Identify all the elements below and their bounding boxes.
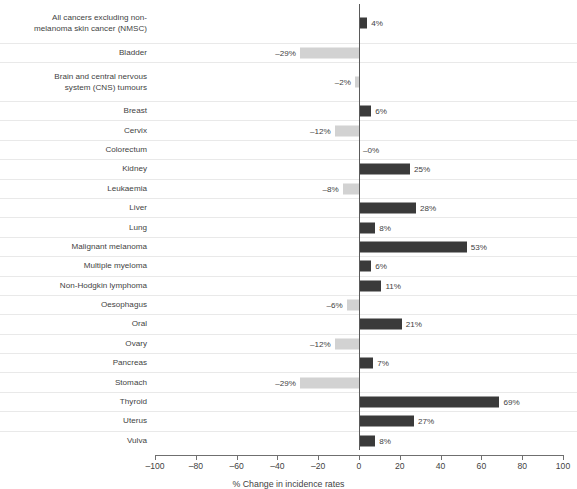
data-bar — [359, 222, 375, 233]
data-value-label: –12% — [310, 339, 331, 348]
data-bar — [359, 435, 375, 446]
category-label: Kidney — [0, 164, 147, 175]
data-bar — [359, 280, 381, 291]
category-label: Cervix — [0, 125, 147, 136]
chart-row: Ovary–12% — [0, 334, 577, 353]
chart-row: Liver28% — [0, 198, 577, 217]
category-label: Vulva — [0, 436, 147, 447]
category-label: Colorectum — [0, 145, 147, 156]
chart-row: Multiple myeloma6% — [0, 256, 577, 275]
data-bar — [359, 416, 414, 427]
data-value-label: 53% — [471, 242, 487, 251]
data-value-label: 6% — [375, 262, 387, 271]
category-label: Lung — [0, 222, 147, 233]
category-label: Leukaemia — [0, 183, 147, 194]
chart-row: Brain and central nervous system (CNS) t… — [0, 62, 577, 101]
category-label: Non-Hodgkin lymphoma — [0, 280, 147, 291]
data-value-label: 7% — [377, 359, 389, 368]
data-bar — [347, 300, 359, 311]
x-axis-tick — [522, 455, 523, 460]
x-axis-tick-label: –40 — [270, 461, 284, 471]
data-value-label: 69% — [503, 398, 519, 407]
category-label: Bladder — [0, 48, 147, 59]
x-axis-tick — [318, 455, 319, 460]
x-axis-tick-label: 20 — [395, 461, 405, 471]
x-axis-title: % Change in incidence rates — [0, 479, 577, 489]
data-value-label: –29% — [275, 378, 296, 387]
chart-row: Kidney25% — [0, 159, 577, 178]
chart-row: Breast6% — [0, 101, 577, 120]
zero-axis-line — [359, 4, 360, 450]
category-label: Oesophagus — [0, 300, 147, 311]
chart-row: Pancreas7% — [0, 353, 577, 372]
data-bar — [359, 319, 402, 330]
data-value-label: –2% — [335, 78, 351, 87]
data-bar — [335, 125, 359, 136]
data-bar — [359, 164, 410, 175]
data-value-label: –8% — [323, 184, 339, 193]
data-value-label: 11% — [385, 281, 401, 290]
data-bar — [359, 203, 416, 214]
data-value-label: –0% — [363, 145, 379, 154]
x-axis-tick-label: –80 — [189, 461, 203, 471]
x-axis-tick — [400, 455, 401, 460]
data-value-label: 21% — [406, 320, 422, 329]
x-axis-tick-label: 40 — [436, 461, 446, 471]
data-value-label: 4% — [371, 19, 383, 28]
data-bar — [335, 338, 359, 349]
x-axis-tick-label: 100 — [556, 461, 570, 471]
x-axis-tick-label: 80 — [517, 461, 527, 471]
data-bar — [300, 47, 359, 58]
x-axis-tick-label: –60 — [229, 461, 243, 471]
category-label: Liver — [0, 203, 147, 214]
category-label: Pancreas — [0, 358, 147, 369]
x-axis-tick — [481, 455, 482, 460]
x-axis-tick-label: –100 — [145, 461, 164, 471]
x-axis-tick-label: 0 — [357, 461, 362, 471]
chart-row: Colorectum–0% — [0, 140, 577, 159]
data-bar — [359, 397, 499, 408]
data-value-label: 25% — [414, 165, 430, 174]
chart-row: Thyroid69% — [0, 392, 577, 411]
category-label: Multiple myeloma — [0, 261, 147, 272]
x-axis-tick — [441, 455, 442, 460]
x-axis-tick — [359, 455, 360, 460]
data-value-label: 27% — [418, 417, 434, 426]
x-axis-tick-label: –20 — [311, 461, 325, 471]
chart-row: Uterus27% — [0, 411, 577, 430]
data-value-label: –6% — [327, 301, 343, 310]
category-label: Oral — [0, 319, 147, 330]
chart-row: Stomach–29% — [0, 372, 577, 391]
data-bar — [359, 18, 367, 29]
x-axis-tick — [277, 455, 278, 460]
data-value-label: 6% — [375, 107, 387, 116]
chart-row: Oesophagus–6% — [0, 295, 577, 314]
category-label: Thyroid — [0, 397, 147, 408]
category-label: Uterus — [0, 416, 147, 427]
chart-row: All cancers excluding non- melanoma skin… — [0, 4, 577, 43]
x-axis-tick — [237, 455, 238, 460]
x-axis-tick-label: 60 — [477, 461, 487, 471]
category-label: Malignant melanoma — [0, 242, 147, 253]
chart-row: Non-Hodgkin lymphoma11% — [0, 276, 577, 295]
x-axis-tick — [563, 455, 564, 460]
data-bar — [343, 183, 359, 194]
data-value-label: –29% — [275, 48, 296, 57]
data-bar — [359, 358, 373, 369]
data-bar — [359, 106, 371, 117]
chart-rows: All cancers excluding non- melanoma skin… — [0, 4, 577, 450]
chart-row: Oral21% — [0, 314, 577, 333]
chart-row: Lung8% — [0, 217, 577, 236]
category-label: Stomach — [0, 377, 147, 388]
x-axis-tick — [196, 455, 197, 460]
category-label: Ovary — [0, 339, 147, 350]
category-label: Breast — [0, 106, 147, 117]
data-bar — [359, 261, 371, 272]
chart-row: Bladder–29% — [0, 43, 577, 62]
chart-row: Leukaemia–8% — [0, 179, 577, 198]
data-value-label: –12% — [310, 126, 331, 135]
chart-row: Malignant melanoma53% — [0, 237, 577, 256]
data-bar — [359, 241, 467, 252]
chart-row: Cervix–12% — [0, 120, 577, 139]
